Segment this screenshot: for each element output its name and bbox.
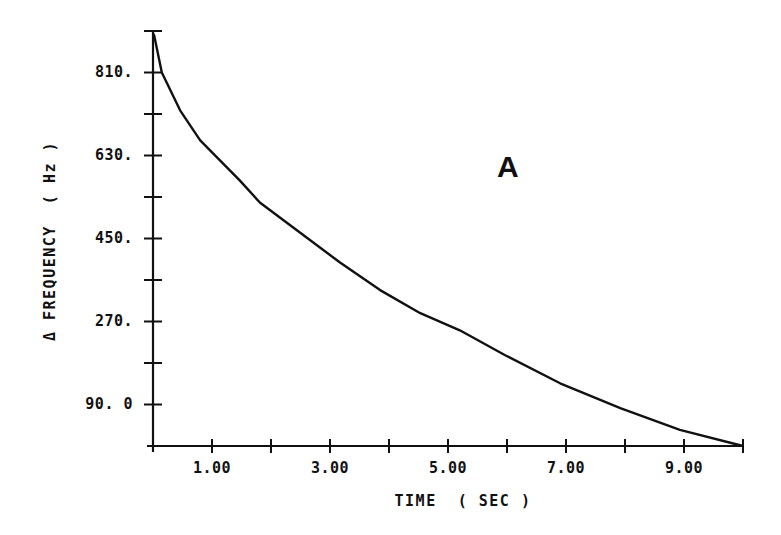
x-tick-label: 5.00 (408, 459, 488, 477)
y-tick-label: 450. (53, 229, 133, 247)
x-tick-label: 1.00 (172, 459, 252, 477)
x-tick-label: 7.00 (526, 459, 606, 477)
x-axis-title: TIME ( SEC ) (313, 492, 613, 510)
y-tick-label: 90. 0 (53, 395, 133, 413)
x-tick-label: 9.00 (644, 459, 724, 477)
y-tick-label: 270. (53, 312, 133, 330)
chart: 90. 0270.450.630.810.1.003.005.007.009.0… (0, 0, 781, 535)
data-line (153, 33, 743, 446)
y-tick-label: 810. (53, 63, 133, 81)
x-tick-label: 3.00 (290, 459, 370, 477)
y-axis-title: Δ FREQUENCY ( Hz ) (41, 91, 59, 391)
y-tick-label: 630. (53, 146, 133, 164)
panel-label: A (497, 150, 519, 184)
